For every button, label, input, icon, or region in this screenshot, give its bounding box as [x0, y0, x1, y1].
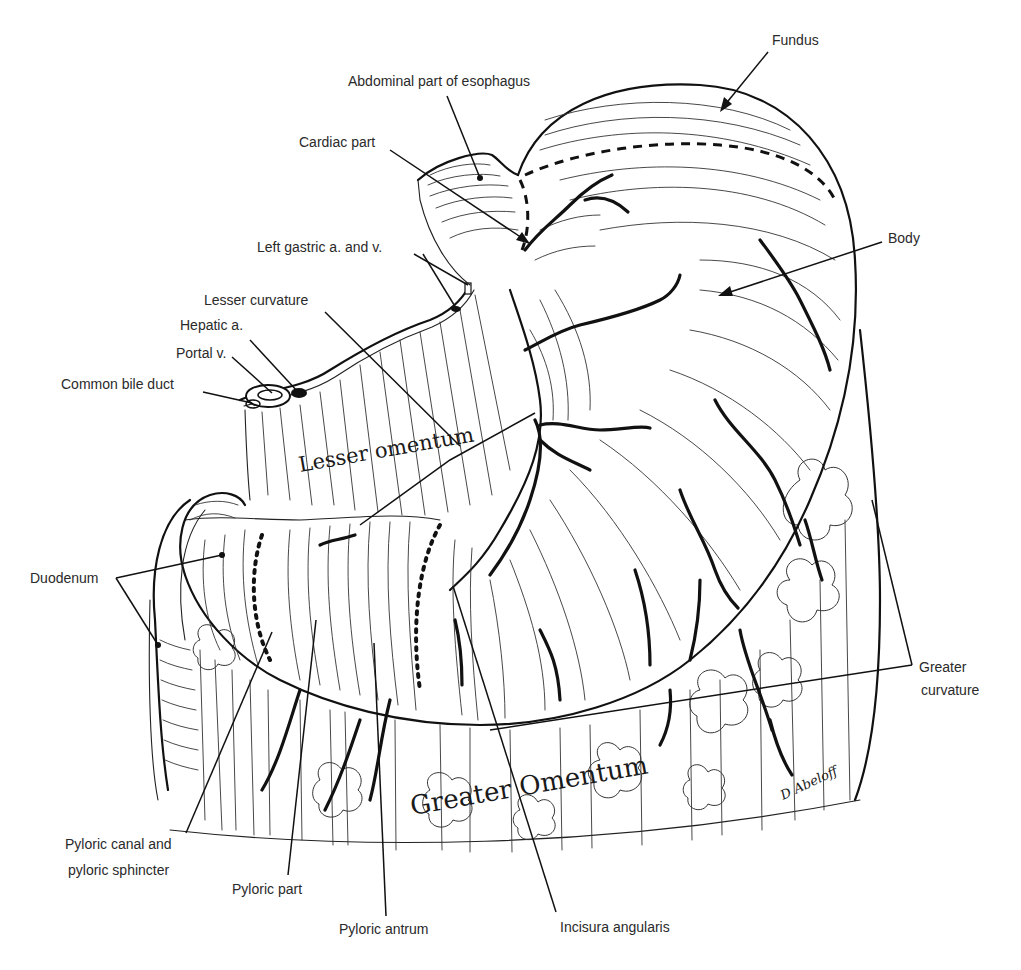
lesser-omentum: Lesser omentum [240, 283, 510, 515]
duodenum [154, 493, 245, 790]
greater-omentum-inline-label: Greater Omentum [408, 750, 650, 821]
label-pyloric-part: Pyloric part [232, 881, 302, 897]
label-pyloric-canal-2: pyloric sphincter [68, 862, 169, 878]
label-greater-curvature-1: Greater [919, 659, 967, 675]
label-lesser-curvature: Lesser curvature [204, 292, 308, 308]
label-hepatic-a: Hepatic a. [180, 317, 243, 333]
label-left-gastric: Left gastric a. and v. [257, 239, 382, 255]
stomach-anatomy-figure: Lesser omentum [0, 0, 1021, 970]
label-common-bile-duct: Common bile duct [61, 376, 174, 392]
label-portal-v: Portal v. [176, 345, 226, 361]
label-duodenum: Duodenum [30, 570, 99, 586]
hepatic-artery [291, 388, 307, 398]
label-incisura-angularis: Incisura angularis [560, 919, 670, 935]
label-fundus: Fundus [772, 32, 819, 48]
label-cardiac-part: Cardiac part [299, 134, 375, 150]
label-body: Body [888, 230, 920, 246]
label-pyloric-canal-1: Pyloric canal and [65, 836, 172, 852]
lesser-omentum-inline-label: Lesser omentum [297, 422, 476, 476]
label-abdominal-esophagus: Abdominal part of esophagus [348, 73, 530, 89]
label-pyloric-antrum: Pyloric antrum [339, 921, 428, 937]
portal-vein-ring [246, 385, 290, 407]
stomach [185, 84, 856, 725]
label-greater-curvature-2: curvature [921, 682, 980, 698]
